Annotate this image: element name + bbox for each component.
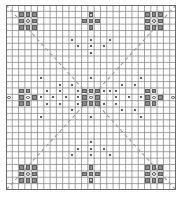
lattice-square [152, 101, 157, 106]
lattice-square [19, 101, 24, 106]
lattice-square [152, 25, 157, 30]
lattice-square [145, 95, 150, 100]
lattice-dot [89, 153, 94, 158]
lattice-square [89, 165, 94, 170]
lattice-square [19, 12, 24, 17]
lattice-square [158, 25, 163, 30]
lattice-square [19, 165, 24, 170]
lattice-square [95, 101, 100, 106]
lattice-dot [139, 76, 144, 81]
lattice-dot [126, 95, 131, 100]
lattice-square [158, 178, 163, 183]
lattice-square [145, 178, 150, 183]
lattice-dot [38, 95, 43, 100]
lattice-square [95, 95, 100, 100]
lattice-dot [139, 95, 144, 100]
lattice-dot [89, 50, 94, 55]
lattice-square [19, 178, 24, 183]
lattice-square [26, 101, 31, 106]
lattice-square [145, 19, 150, 24]
lattice-square [89, 19, 94, 24]
lattice-dot [108, 89, 113, 94]
lattice-dot [101, 101, 106, 106]
lattice-dot [114, 89, 119, 94]
lattice-dot [139, 114, 144, 119]
lattice-square [82, 89, 87, 94]
lattice-square [26, 25, 31, 30]
lattice-dot [45, 89, 50, 94]
lattice-dot [89, 44, 94, 49]
lattice-square [32, 172, 37, 177]
lattice-dot [133, 82, 138, 87]
lattice-square [89, 89, 94, 94]
lattice-square [152, 89, 157, 94]
lattice-dot [101, 146, 106, 151]
lattice-dot [38, 76, 43, 81]
rotation-center-circle [152, 172, 156, 176]
lattice-dot [57, 89, 62, 94]
lattice-square [19, 172, 24, 177]
lattice-square [26, 12, 31, 17]
lattice-square [82, 172, 87, 177]
lattice-square [32, 25, 37, 30]
lattice-dot [133, 108, 138, 113]
lattice-square [152, 178, 157, 183]
lattice-dot [76, 146, 81, 151]
lattice-square [152, 12, 157, 17]
lattice-dot [45, 101, 50, 106]
rotation-center-circle [26, 19, 30, 23]
lattice-dot [70, 38, 75, 43]
lattice-square [19, 25, 24, 30]
lattice-square [26, 165, 31, 170]
grid-area [6, 5, 176, 190]
lattice-dot [89, 114, 94, 119]
lattice-dot [114, 101, 119, 106]
lattice-dot [76, 95, 81, 100]
lattice-square [145, 101, 150, 106]
lattice-square [32, 19, 37, 24]
lattice-square [158, 165, 163, 170]
lattice-square [82, 95, 87, 100]
lattice-square [19, 89, 24, 94]
lattice-square [19, 19, 24, 24]
lattice-dot [120, 108, 125, 113]
lattice-dot [70, 153, 75, 158]
lattice-square [32, 95, 37, 100]
lattice-dot [89, 146, 94, 151]
lattice-square [145, 89, 150, 94]
lattice-dot [51, 95, 56, 100]
lattice-square [145, 165, 150, 170]
lattice-symmetry-figure [0, 0, 182, 200]
lattice-square [19, 95, 24, 100]
lattice-square [95, 172, 100, 177]
lattice-square [95, 19, 100, 24]
lattice-square [145, 172, 150, 177]
lattice-square [158, 12, 163, 17]
lattice-square [145, 12, 150, 17]
lattice-dot [76, 44, 81, 49]
lattice-dot [57, 101, 62, 106]
lattice-square [26, 89, 31, 94]
lattice-dot [120, 82, 125, 87]
lattice-square [82, 19, 87, 24]
lattice-dot [101, 89, 106, 94]
lattice-square [152, 165, 157, 170]
lattice-dot [89, 140, 94, 145]
lattice-square [32, 165, 37, 170]
lattice-square [158, 19, 163, 24]
lattice-square [145, 25, 150, 30]
lattice-dot [70, 82, 75, 87]
lattice-dot [89, 38, 94, 43]
lattice-dot [57, 82, 62, 87]
lattice-square [89, 25, 94, 30]
lattice-square [26, 178, 31, 183]
lattice-dot [114, 95, 119, 100]
rotation-center-circle [152, 19, 156, 23]
lattice-dot [108, 153, 113, 158]
lattice-square [95, 89, 100, 94]
lattice-dot [76, 101, 81, 106]
lattice-dot [76, 89, 81, 94]
lattice-dot [63, 95, 68, 100]
lattice-square [32, 12, 37, 17]
lattice-dot [101, 44, 106, 49]
